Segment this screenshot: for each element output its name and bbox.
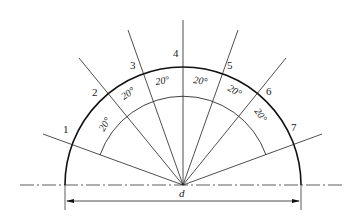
angle-label-1: 20° xyxy=(96,115,113,133)
point-label-3: 3 xyxy=(130,59,136,71)
radial-line-5 xyxy=(183,30,238,185)
point-label-4: 4 xyxy=(173,47,179,59)
angle-label-3: 20° xyxy=(154,74,170,87)
angle-label-6: 20° xyxy=(252,106,269,124)
angle-label-2: 20° xyxy=(119,85,137,102)
point-label-6: 6 xyxy=(266,85,272,97)
arrow-left-icon xyxy=(66,199,74,203)
point-label-5: 5 xyxy=(227,59,233,71)
angle-label-4: 20° xyxy=(193,74,208,87)
point-label-1: 1 xyxy=(63,123,69,135)
radial-lines xyxy=(43,20,322,185)
point-label-2: 2 xyxy=(92,86,98,98)
dimension-label: d xyxy=(179,187,185,199)
point-label-7: 7 xyxy=(291,121,297,133)
semicircle-division-diagram: 1 2 3 4 5 6 7 20° 20° 20° 20° 20° 20° d xyxy=(0,0,357,224)
arrow-right-icon xyxy=(292,199,300,203)
angle-label-5: 20° xyxy=(226,82,244,99)
